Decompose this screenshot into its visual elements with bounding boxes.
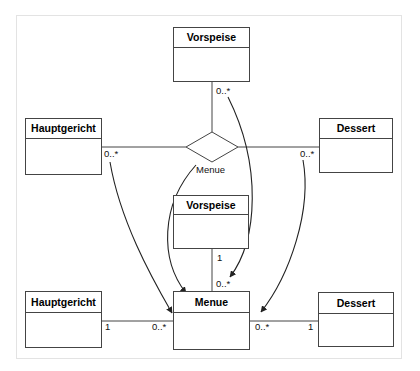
class-attributes-vorspeise-mid <box>174 215 248 249</box>
class-name-dessert-bottom: Dessert <box>319 293 393 314</box>
multiplicity-vorspeise-top: 0..* <box>216 86 230 96</box>
class-attributes-menue-bottom <box>174 313 249 350</box>
class-box-vorspeise-top[interactable]: Vorspeise <box>173 27 250 82</box>
class-attributes-dessert-top <box>320 139 392 173</box>
class-attributes-dessert-bottom <box>319 314 393 347</box>
multiplicity-dessert-top: 0..* <box>300 149 314 159</box>
class-box-dessert-bottom[interactable]: Dessert <box>318 292 394 347</box>
class-box-dessert-top[interactable]: Dessert <box>319 118 393 173</box>
arrow-dessert <box>261 160 305 312</box>
class-box-hauptgericht-bottom[interactable]: Hauptgericht <box>25 291 102 348</box>
class-attributes-hauptgericht-top <box>26 139 101 175</box>
class-name-dessert-top: Dessert <box>320 119 392 139</box>
multiplicity-hauptgericht-top: 0..* <box>104 149 118 159</box>
multiplicity-dessert-bottom: 1 <box>308 322 313 332</box>
association-diamond <box>186 132 238 162</box>
multiplicity-menue-left: 0..* <box>152 322 166 332</box>
class-box-hauptgericht-top[interactable]: Hauptgericht <box>25 118 102 175</box>
multiplicity-menue-right: 0..* <box>255 322 269 332</box>
multiplicity-vorspeise-mid: 1 <box>217 253 222 263</box>
class-box-menue-bottom[interactable]: Menue <box>173 291 250 350</box>
arrow-vorspeise <box>228 97 252 277</box>
class-attributes-vorspeise-top <box>174 48 249 82</box>
diagram-canvas: Vorspeise Hauptgericht Dessert 0..* 0..*… <box>0 0 420 371</box>
association-name-menue: Menue <box>196 165 225 175</box>
multiplicity-hauptgericht-bottom: 1 <box>105 322 110 332</box>
class-box-vorspeise-mid[interactable]: Vorspeise <box>173 195 249 249</box>
multiplicity-menue-top: 0..* <box>216 279 230 289</box>
class-name-vorspeise-top: Vorspeise <box>174 28 249 48</box>
upper-association-lines <box>102 82 319 162</box>
class-name-hauptgericht-bottom: Hauptgericht <box>26 292 101 313</box>
arrow-hauptgericht <box>110 162 172 313</box>
class-name-hauptgericht-top: Hauptgericht <box>26 119 101 139</box>
class-name-vorspeise-mid: Vorspeise <box>174 196 248 215</box>
class-name-menue-bottom: Menue <box>174 292 249 313</box>
class-attributes-hauptgericht-bottom <box>26 313 101 348</box>
